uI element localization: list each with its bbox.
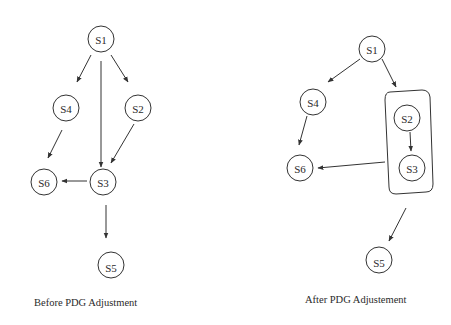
- svg-text:S3: S3: [97, 177, 109, 189]
- node-s5: S5: [366, 247, 392, 273]
- pdg-figure: S1 S4 S2 S6 S3 S5 Before PDG Adjustment: [0, 0, 451, 325]
- edge-s1-s4: [77, 55, 91, 82]
- svg-text:S2: S2: [132, 103, 144, 115]
- svg-text:S1: S1: [95, 34, 107, 46]
- edge-group-s6: [318, 162, 385, 168]
- edge-s1-s2: [111, 55, 128, 82]
- node-s6: S6: [31, 169, 57, 195]
- node-s3: S3: [399, 155, 425, 181]
- svg-text:S6: S6: [294, 163, 306, 175]
- edge-s4-s6: [299, 116, 307, 145]
- caption-before: Before PDG Adjustment: [34, 297, 137, 308]
- svg-text:S4: S4: [60, 103, 72, 115]
- node-s5: S5: [98, 252, 124, 278]
- svg-text:S3: S3: [406, 163, 418, 175]
- node-s4: S4: [300, 89, 326, 115]
- node-s1: S1: [88, 26, 114, 52]
- node-s3: S3: [90, 169, 116, 195]
- node-s2: S2: [394, 105, 420, 131]
- edge-s1-s4: [328, 59, 360, 82]
- diagram-before: S1 S4 S2 S6 S3 S5 Before PDG Adjustment: [31, 26, 151, 308]
- svg-text:S5: S5: [105, 262, 117, 274]
- svg-text:S6: S6: [38, 177, 50, 189]
- svg-text:S2: S2: [401, 113, 413, 125]
- node-s1: S1: [359, 36, 385, 62]
- edge-group-s5: [389, 208, 406, 241]
- caption-after: After PDG Adjustement: [305, 294, 407, 305]
- node-s2: S2: [125, 95, 151, 121]
- edge-s4-s6: [48, 130, 62, 158]
- node-s6: S6: [287, 155, 313, 181]
- node-s4: S4: [53, 95, 79, 121]
- svg-text:S1: S1: [366, 44, 378, 56]
- svg-text:S5: S5: [373, 257, 385, 269]
- svg-text:S4: S4: [307, 97, 319, 109]
- edge-s2-s3: [410, 132, 411, 151]
- diagram-after: S1 S4 S2 S3 S6 S5 After PDG Adjustement: [287, 36, 433, 305]
- edge-s1-group: [382, 59, 396, 87]
- edge-s2-s3: [111, 124, 134, 163]
